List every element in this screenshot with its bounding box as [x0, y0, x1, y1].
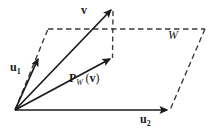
label-subspace-w: W	[168, 29, 178, 41]
label-u2-subscript: 2	[147, 119, 151, 128]
label-projection-argument-close: )	[95, 71, 99, 85]
vector-v-arrow	[15, 10, 111, 110]
label-projection-subscript: W	[76, 78, 83, 87]
vector-group	[15, 10, 167, 110]
label-u1: u1	[10, 61, 21, 73]
label-u2: u2	[140, 113, 151, 125]
label-u1-base: u	[10, 60, 17, 74]
label-v: v	[81, 4, 87, 16]
label-v-base: v	[81, 3, 87, 17]
diagram-canvas	[0, 0, 219, 128]
label-u2-base: u	[140, 112, 147, 126]
projection-drop-line	[113, 11, 114, 58]
projection-diagram: u1 u2 v PW (v) W	[0, 0, 219, 128]
label-u1-subscript: 1	[17, 67, 21, 76]
label-projection: PW (v)	[69, 72, 99, 84]
